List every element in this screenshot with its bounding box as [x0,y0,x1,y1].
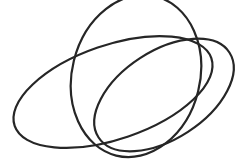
figure-canvas: Three Overlapping Ellipses Black outline… [0,0,245,160]
ellipse-drawing-svg: Three Overlapping Ellipses Black outline… [0,0,245,160]
